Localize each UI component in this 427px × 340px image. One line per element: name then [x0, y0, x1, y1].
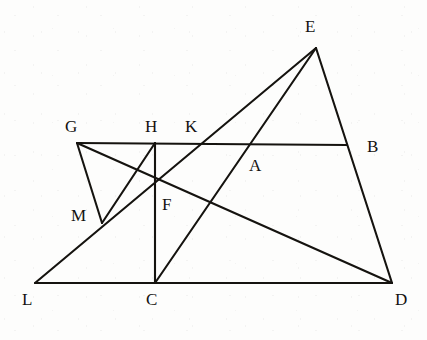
label-m: M: [71, 207, 86, 224]
segment-l-e-through-m-f-k: [35, 48, 316, 283]
geometry-figure: EGHKBAMFLCD: [0, 0, 427, 340]
segment-m-h: [102, 143, 155, 223]
label-g: G: [65, 118, 77, 135]
label-c: C: [146, 291, 157, 308]
segment-g-d-through-f: [77, 143, 392, 283]
label-h: H: [145, 118, 157, 135]
label-l: L: [22, 291, 32, 308]
segment-e-d: [316, 48, 392, 283]
segment-c-e-through-a: [155, 48, 316, 283]
label-f: F: [162, 196, 171, 213]
label-d: D: [395, 291, 407, 308]
segment-g-b-horizontal: [77, 143, 347, 145]
label-a: A: [249, 157, 261, 174]
label-b: B: [367, 138, 378, 155]
label-k: K: [185, 118, 197, 135]
segments-group: [35, 48, 392, 283]
figure-canvas: [0, 0, 427, 340]
label-e: E: [305, 18, 315, 35]
